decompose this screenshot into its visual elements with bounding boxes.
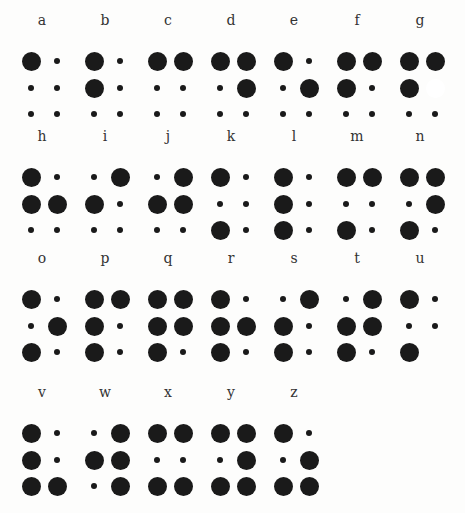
braille-cell-g: g [398, 12, 458, 122]
dot-grid [335, 288, 379, 358]
letter-label: e [272, 12, 316, 28]
unraised-dot-3 [335, 103, 357, 125]
raised-dot-1 [20, 288, 42, 310]
dot-grid [146, 50, 190, 120]
letter-label: y [209, 384, 253, 400]
raised-dot-2 [335, 315, 357, 337]
raised-dot-1 [209, 166, 231, 188]
unraised-dot-2 [272, 449, 294, 471]
raised-dot-5 [235, 77, 257, 99]
letter-label: b [83, 12, 127, 28]
raised-dot-4 [172, 166, 194, 188]
raised-dot-3 [83, 341, 105, 363]
dot-grid [398, 50, 442, 120]
raised-dot-1 [209, 50, 231, 72]
unraised-dot-1 [272, 288, 294, 310]
braille-cell-o: o [20, 250, 80, 360]
dot-grid [272, 422, 316, 492]
raised-dot-5 [109, 449, 131, 471]
raised-dot-2 [398, 77, 420, 99]
raised-dot-3 [209, 475, 231, 497]
unraised-dot-4 [235, 288, 257, 310]
unraised-dot-1 [83, 422, 105, 444]
dot-grid [209, 50, 253, 120]
dot-grid [398, 166, 442, 236]
braille-cell-b: b [83, 12, 143, 122]
unraised-dot-5 [424, 315, 446, 337]
unraised-dot-2 [146, 449, 168, 471]
dot-grid [272, 166, 316, 236]
dot-grid [20, 422, 64, 492]
braille-cell-d: d [209, 12, 269, 122]
unraised-dot-6 [46, 103, 68, 125]
raised-dot-4 [235, 50, 257, 72]
raised-dot-3 [272, 475, 294, 497]
raised-dot-2 [272, 315, 294, 337]
dot-grid [209, 422, 253, 492]
letter-label: j [146, 128, 190, 144]
braille-cell-y: y [209, 384, 269, 494]
braille-cell-z: z [272, 384, 332, 494]
raised-dot-6 [235, 475, 257, 497]
unraised-dot-3 [272, 103, 294, 125]
braille-cell-i: i [83, 128, 143, 238]
unraised-dot-6 [172, 103, 194, 125]
letter-label: p [83, 250, 127, 266]
unraised-dot-5 [109, 193, 131, 215]
raised-dot-3 [146, 341, 168, 363]
unraised-dot-4 [235, 166, 257, 188]
unraised-dot-2 [20, 77, 42, 99]
letter-label: q [146, 250, 190, 266]
unraised-dot-6 [235, 103, 257, 125]
raised-dot-1 [20, 166, 42, 188]
raised-dot-1 [209, 288, 231, 310]
letter-label: h [20, 128, 64, 144]
raised-dot-2 [83, 193, 105, 215]
braille-cell-t: t [335, 250, 395, 360]
dot-grid [20, 288, 64, 358]
missing-dot-6 [424, 341, 446, 363]
raised-dot-3 [398, 219, 420, 241]
braille-cell-x: x [146, 384, 206, 494]
raised-dot-4 [109, 422, 131, 444]
raised-dot-5 [46, 193, 68, 215]
raised-dot-2 [146, 315, 168, 337]
letter-label: o [20, 250, 64, 266]
unraised-dot-3 [146, 219, 168, 241]
raised-dot-3 [272, 219, 294, 241]
raised-dot-5 [46, 315, 68, 337]
letter-label: n [398, 128, 442, 144]
raised-dot-4 [424, 166, 446, 188]
raised-dot-1 [398, 288, 420, 310]
letter-label: g [398, 12, 442, 28]
unraised-dot-3 [83, 103, 105, 125]
unraised-dot-3 [83, 475, 105, 497]
raised-dot-1 [335, 166, 357, 188]
raised-dot-3 [20, 341, 42, 363]
raised-dot-4 [361, 50, 383, 72]
raised-dot-1 [272, 422, 294, 444]
braille-cell-w: w [83, 384, 143, 494]
unraised-dot-6 [361, 219, 383, 241]
dot-grid [83, 422, 127, 492]
braille-cell-s: s [272, 250, 332, 360]
letter-label: c [146, 12, 190, 28]
raised-dot-4 [235, 422, 257, 444]
raised-dot-3 [209, 219, 231, 241]
raised-dot-1 [209, 422, 231, 444]
braille-cell-f: f [335, 12, 395, 122]
braille-cell-l: l [272, 128, 332, 238]
unraised-dot-6 [109, 219, 131, 241]
raised-dot-4 [109, 166, 131, 188]
raised-dot-1 [20, 422, 42, 444]
unraised-dot-5 [172, 77, 194, 99]
unraised-dot-2 [209, 449, 231, 471]
unraised-dot-2 [209, 193, 231, 215]
letter-label: z [272, 384, 316, 400]
raised-dot-2 [83, 315, 105, 337]
braille-cell-u: u [398, 250, 458, 360]
dot-grid [209, 166, 253, 236]
unraised-dot-2 [335, 193, 357, 215]
raised-dot-1 [20, 50, 42, 72]
raised-dot-1 [272, 50, 294, 72]
